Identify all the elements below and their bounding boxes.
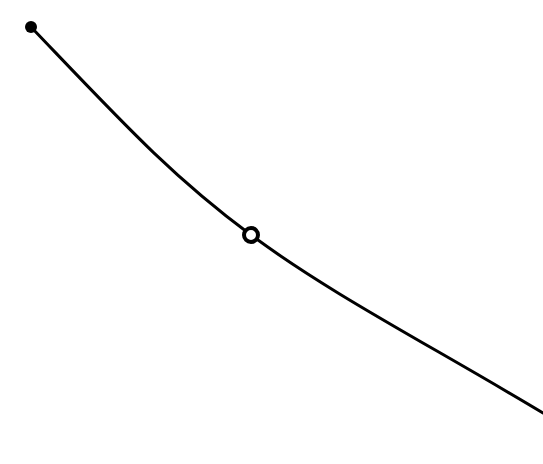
background xyxy=(0,0,543,464)
marked-point-open xyxy=(244,228,258,242)
start-point-filled xyxy=(25,21,37,33)
curve-diagram xyxy=(0,0,543,464)
